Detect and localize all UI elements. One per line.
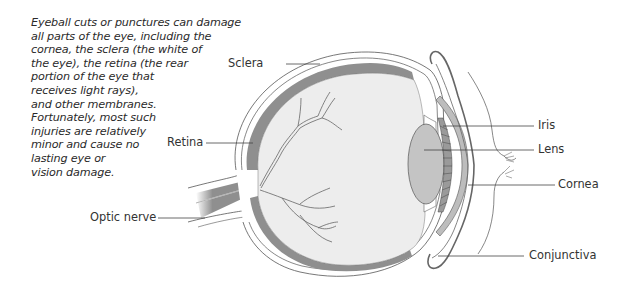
label-retina: Retina [167,136,203,149]
label-optic-nerve: Optic nerve [90,211,156,224]
label-iris: Iris [538,119,555,132]
eyelid-outlines [468,72,516,254]
label-cornea: Cornea [558,178,599,191]
label-lens: Lens [538,143,564,156]
label-conjunctiva: Conjunctiva [529,249,596,262]
eye-cross-section-illustration [0,0,624,289]
label-sclera: Sclera [228,57,263,70]
lens-shape [408,124,444,204]
